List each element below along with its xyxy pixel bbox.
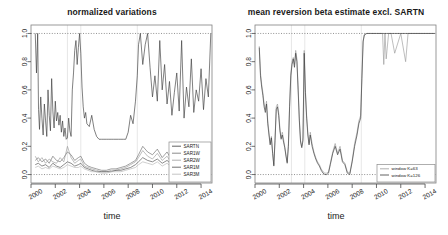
x-tick-label: 2008: [348, 187, 364, 201]
legend-entry-label: SAR2W: [184, 158, 201, 163]
legend-entry-label: SAR1M: [184, 165, 200, 170]
x-tick-label: 2010: [149, 187, 165, 201]
x-tick-label: 2002: [276, 187, 292, 201]
y-tick-label: 0.4: [246, 113, 253, 122]
y-tick-label: 0.8: [22, 57, 29, 66]
y-tick-label: 0.2: [22, 141, 29, 150]
legend-entry-label: SAR1W: [184, 151, 201, 156]
x-tick-label: 2000: [251, 187, 267, 201]
x-tick-label: 2006: [324, 187, 340, 201]
legend-entry-label: SARTN: [184, 144, 200, 149]
x-tick-label: 2014: [197, 187, 213, 201]
y-tick-label: 1.0: [22, 29, 29, 38]
x-tick-label: 2010: [373, 187, 389, 201]
x-tick-label: 2012: [397, 187, 413, 201]
legend-entry-label: window K=126: [392, 173, 421, 178]
x-tick-label: 2014: [421, 187, 437, 201]
y-tick-label: 0.0: [246, 170, 253, 179]
x-tick-label: 2006: [100, 187, 116, 201]
legend-entry-label: window K=63: [392, 166, 419, 171]
plot-svg-right: 0.00.20.40.60.81.02000200220042006200820…: [224, 0, 448, 235]
y-tick-label: 0.6: [22, 85, 29, 94]
y-tick-label: 0.8: [246, 57, 253, 66]
y-tick-label: 0.2: [246, 141, 253, 150]
x-tick-label: 2008: [124, 187, 140, 201]
legend-entry-label: SAR3M: [184, 172, 200, 177]
y-tick-label: 1.0: [246, 29, 253, 38]
x-tick-label: 2012: [173, 187, 189, 201]
x-tick-label: 2004: [300, 187, 316, 201]
y-tick-label: 0.6: [246, 85, 253, 94]
figure-container: normalized variations 0.00.20.40.60.81.0…: [0, 0, 448, 235]
chart-panel-normalized-variations: normalized variations 0.00.20.40.60.81.0…: [0, 0, 224, 235]
plot-svg-left: 0.00.20.40.60.81.02000200220042006200820…: [0, 0, 224, 235]
y-tick-label: 0.4: [22, 113, 29, 122]
y-tick-label: 0.0: [22, 170, 29, 179]
x-tick-label: 2002: [52, 187, 68, 201]
x-axis-label-right: time: [224, 211, 448, 221]
x-tick-label: 2004: [76, 187, 92, 201]
x-tick-label: 2000: [27, 187, 43, 201]
chart-panel-mean-reversion-beta: mean reversion beta estimate excl. SARTN…: [224, 0, 448, 235]
x-axis-label-left: time: [0, 211, 224, 221]
